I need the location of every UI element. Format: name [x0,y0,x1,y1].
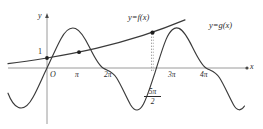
fraction-denominator: 2 [144,98,161,106]
x-tick-label-3pi: 3π [168,71,176,79]
x-tick-label-five-pi-over-two: 5π 2 [144,88,161,106]
curve-label-g: y=g(x) [209,21,232,30]
x-axis-label: x [250,63,254,71]
fraction-numerator: 5π [144,88,161,96]
curve-f [8,20,185,64]
y-axis-label: y [38,12,42,20]
point-tangency [150,30,154,34]
x-tick-label-pi: π [75,71,79,79]
x-tick-label-2pi: 2π [104,71,112,79]
x-tick-label-4pi: 4π [200,71,208,79]
point-origin-intersection [45,56,49,60]
guide-line-five-pi-over-two [152,34,154,72]
math-figure: y x O 1 π 2π 3π 4π 5π 2 y=f(x) y=g(x) [0,0,263,129]
x-axis [8,66,249,69]
y-unit-label: 1 [38,48,42,56]
curve-label-f: y=f(x) [128,13,149,22]
point-pi-intersection [77,50,81,54]
origin-label: O [50,71,56,79]
